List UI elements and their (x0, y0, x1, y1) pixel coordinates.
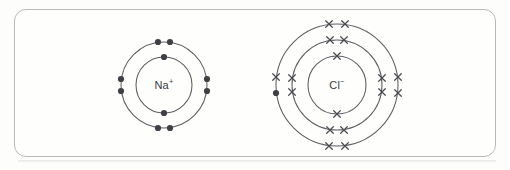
chloride-element-symbol: Cl (329, 79, 340, 91)
sodium-outer-shell-electron-dot-5 (118, 88, 124, 94)
sodium-outer-shell-electron-dot-4 (155, 125, 161, 131)
sodium-inner-shell-electron-dot-1 (161, 54, 167, 60)
diagram-frame (14, 9, 496, 157)
chloride-outer-shell-electron-dot-5 (273, 90, 279, 96)
chloride-charge-superscript: − (340, 77, 345, 86)
ionic-bonding-diagram: Na+ Cl− (0, 0, 510, 170)
sodium-ion-group: Na+ (111, 32, 217, 138)
sodium-outer-shell-electron-dot-1 (155, 39, 161, 45)
sodium-label: Na+ (154, 79, 173, 91)
sodium-element-symbol: Na (154, 79, 168, 91)
chloride-label: Cl− (329, 79, 344, 91)
frame-drop-shadow (18, 160, 496, 163)
sodium-inner-shell-electron-dot-2 (161, 110, 167, 116)
sodium-outer-shell-electron-dot-6 (118, 76, 124, 82)
sodium-charge-superscript: + (169, 77, 174, 86)
sodium-outer-shell-electron-dot-2 (167, 39, 173, 45)
sodium-outer-shell-electron-dot-8 (204, 88, 210, 94)
sodium-outer-shell-electron-dot-7 (204, 76, 210, 82)
chloride-ion-group: Cl− (266, 14, 408, 156)
sodium-outer-shell-electron-dot-3 (167, 125, 173, 131)
